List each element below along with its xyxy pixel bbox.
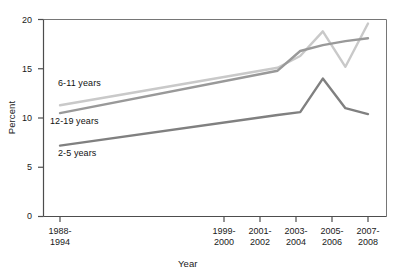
series-line-6-11-years xyxy=(60,23,368,105)
series-label-2-5-years: 2-5 years xyxy=(58,148,96,158)
series-line-2-5-years xyxy=(60,79,368,146)
x-tick-line2: 1994 xyxy=(36,237,84,248)
x-tick-line1: 1988- xyxy=(36,226,84,237)
series-label-6-11-years: 6-11 years xyxy=(58,78,101,88)
y-tick-label-15: 15 xyxy=(10,64,32,75)
y-tick-label-20: 20 xyxy=(10,15,32,26)
chart-figure: 0 5 10 15 20 1988- 1994 1999- 2000 2001-… xyxy=(0,0,407,279)
y-tick-marks xyxy=(38,20,44,217)
x-tick-line1: 2007- xyxy=(344,226,392,237)
series-line-12-19-years xyxy=(60,38,368,113)
data-series-group xyxy=(60,23,368,145)
x-tick-marks xyxy=(60,217,368,223)
x-tick-label-2007-2008: 2007- 2008 xyxy=(344,226,392,248)
y-tick-label-5: 5 xyxy=(10,162,32,173)
x-tick-line2: 2008 xyxy=(344,237,392,248)
x-tick-label-1988-1994: 1988- 1994 xyxy=(36,226,84,248)
series-label-12-19-years: 12-19 years xyxy=(50,116,99,126)
y-axis-title: Percent xyxy=(6,88,17,148)
y-tick-label-0: 0 xyxy=(10,211,32,222)
x-axis-title: Year xyxy=(178,258,198,269)
